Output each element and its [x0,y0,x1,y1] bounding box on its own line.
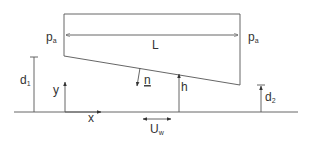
pad-inclined-surface [64,56,240,85]
wall-velocity-label: Uw [150,122,165,136]
inlet-depth-label: d1 [20,73,31,87]
slider-bearing-diagram: L pa pa d1 y x n h d2 Uw [0,0,313,141]
y-axis-label: y [53,83,59,97]
normal-vector-arrow [137,68,140,86]
outlet-depth-label: d2 [265,90,276,104]
gap-height-label: h [181,80,188,94]
pressure-right-label: pa [248,30,259,44]
x-axis-label: x [88,111,94,125]
pressure-left-label: pa [46,30,57,44]
length-label: L [152,38,159,52]
normal-vector-label: n [144,73,151,87]
